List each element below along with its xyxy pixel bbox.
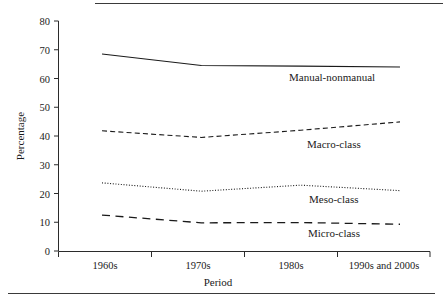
line-chart: 80 70 60 50 40 30 20 10 0 Percentage 196…	[0, 0, 443, 303]
x-axis-title: Period	[204, 276, 233, 288]
series-line-meso-class	[102, 183, 400, 191]
series-line-macro-class	[102, 122, 400, 138]
y-tick-label-50: 50	[40, 102, 51, 113]
figure-container: 80 70 60 50 40 30 20 10 0 Percentage 196…	[0, 0, 443, 303]
y-axis-title: Percentage	[14, 112, 26, 160]
y-tick-label-60: 60	[40, 74, 51, 85]
x-tick-label-1960s: 1960s	[92, 260, 117, 271]
x-tick-label-1990s-2000s: 1990s and 2000s	[349, 260, 420, 271]
y-axis-ticks	[54, 21, 59, 251]
y-tick-label-20: 20	[40, 189, 51, 200]
series-label-manual-nonmanual: Manual-nonmanual	[289, 71, 375, 83]
x-tick-label-1980s: 1980s	[278, 260, 303, 271]
series-line-micro-class	[102, 215, 400, 224]
y-tick-label-40: 40	[40, 131, 51, 142]
y-tick-label-30: 30	[40, 160, 51, 171]
y-tick-label-80: 80	[40, 16, 51, 27]
series-label-micro-class: Micro-class	[308, 227, 360, 239]
y-tick-label-10: 10	[40, 217, 51, 228]
series-label-meso-class: Meso-class	[309, 193, 359, 205]
series-label-macro-class: Macro-class	[307, 138, 361, 150]
series-line-manual-nonmanual	[102, 54, 400, 67]
x-axis-ticks	[59, 252, 431, 258]
y-tick-label-0: 0	[45, 246, 50, 257]
x-tick-label-1970s: 1970s	[185, 260, 210, 271]
y-tick-label-70: 70	[40, 45, 51, 56]
